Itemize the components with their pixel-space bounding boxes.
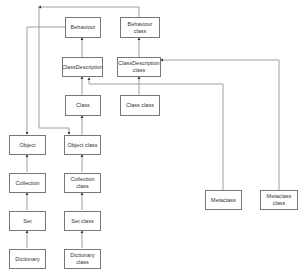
node-metaclass: Metaclass <box>205 190 242 210</box>
node-metaclass-class: Metaclass class <box>260 190 298 210</box>
node-collection: Collection <box>9 173 46 193</box>
node-object: Object <box>9 135 46 155</box>
node-class-description: ClassDescription <box>62 57 103 77</box>
node-object-class: Object class <box>64 135 101 155</box>
node-collection-class: Collection class <box>64 173 101 193</box>
node-dictionary: Dictionary <box>9 249 46 269</box>
node-class-class: Class class <box>120 95 160 116</box>
node-class: Class <box>65 95 101 116</box>
node-behaviour-class: Behaviour class <box>120 17 160 38</box>
node-class-description-class: ClassDescription class <box>117 57 161 77</box>
node-behaviour: Behaviour <box>65 17 101 38</box>
node-set: Set <box>9 211 46 231</box>
node-set-class: Set class <box>64 211 101 231</box>
node-dictionary-class: Dictionary class <box>64 249 101 269</box>
